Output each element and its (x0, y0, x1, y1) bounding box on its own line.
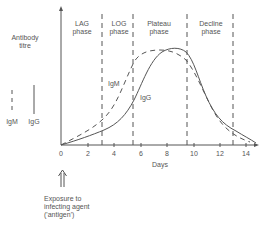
x-axis-label: Days (152, 161, 168, 169)
phase-label-log-line2: phase (106, 28, 132, 36)
exposure-line2: infecting agent (44, 203, 90, 211)
igg-curve (61, 48, 256, 145)
phase-label-plateau-line1: Plateau (143, 20, 175, 28)
tick-label-0: 0 (59, 150, 63, 157)
exposure-line3: ('antigen') (44, 211, 90, 219)
y-axis-label: Antibody titre (8, 34, 42, 50)
phase-label-plateau: Plateau phase (143, 20, 175, 36)
y-axis-label-line2: titre (8, 42, 42, 50)
phase-label-lag-line1: LAG (69, 20, 95, 28)
tick-label-14: 14 (242, 150, 250, 157)
x-axis-arrow-icon (254, 143, 259, 147)
phase-label-lag: LAG phase (69, 20, 95, 36)
phase-label-lag-line2: phase (69, 28, 95, 36)
tick-label-4: 4 (112, 150, 116, 157)
tick-label-10: 10 (190, 150, 198, 157)
tick-label-6: 6 (139, 150, 143, 157)
curve-label-igm: IgM (108, 80, 120, 88)
y-axis-arrow-icon (59, 6, 63, 11)
exposure-line1: Exposure to (44, 195, 90, 203)
exposure-annotation: Exposure to infecting agent ('antigen') (44, 195, 90, 219)
legend-igm-label: IgM (5, 118, 19, 126)
phase-label-decline-line2: phase (194, 28, 228, 36)
phase-label-decline: Decline phase (194, 20, 228, 36)
phase-label-log: LOG phase (106, 20, 132, 36)
legend-igg-label: IgG (27, 118, 41, 126)
phase-label-log-line1: LOG (106, 20, 132, 28)
phase-label-decline-line1: Decline (194, 20, 228, 28)
curve-label-igg: IgG (140, 94, 151, 102)
tick-label-8: 8 (165, 150, 169, 157)
y-axis-label-line1: Antibody (8, 34, 42, 42)
phase-label-plateau-line2: phase (143, 28, 175, 36)
tick-label-12: 12 (216, 150, 224, 157)
igm-curve (61, 50, 250, 145)
tick-label-2: 2 (86, 150, 90, 157)
exposure-arrow-icon (59, 170, 67, 187)
